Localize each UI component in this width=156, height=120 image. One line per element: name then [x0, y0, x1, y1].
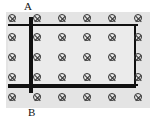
field-into-page-icon — [58, 53, 66, 61]
field-into-page-icon — [134, 93, 142, 101]
field-into-page-icon — [8, 53, 16, 61]
field-into-page-icon — [8, 73, 16, 81]
field-into-page-icon — [58, 73, 66, 81]
field-into-page-icon — [83, 73, 91, 81]
field-into-page-icon — [108, 73, 116, 81]
label-a: A — [24, 1, 32, 12]
field-into-page-icon — [33, 14, 41, 22]
field-into-page-icon — [8, 33, 16, 41]
field-into-page-icon — [134, 73, 142, 81]
bottom-rail — [8, 84, 138, 86]
field-into-page-icon — [134, 53, 142, 61]
field-into-page-icon — [58, 14, 66, 22]
field-into-page-icon — [134, 14, 142, 22]
field-into-page-icon — [58, 93, 66, 101]
field-into-page-icon — [83, 14, 91, 22]
field-into-page-icon — [33, 93, 41, 101]
field-into-page-icon — [33, 73, 41, 81]
field-into-page-icon — [83, 33, 91, 41]
field-into-page-icon — [134, 33, 142, 41]
field-into-page-icon — [33, 53, 41, 61]
field-into-page-icon — [108, 14, 116, 22]
label-b: B — [28, 107, 35, 118]
field-into-page-icon — [8, 14, 16, 22]
field-into-page-icon — [58, 33, 66, 41]
field-into-page-icon — [108, 53, 116, 61]
top-rail — [8, 24, 138, 26]
field-into-page-icon — [33, 33, 41, 41]
field-into-page-icon — [83, 93, 91, 101]
field-into-page-icon — [8, 93, 16, 101]
conducting-frame — [8, 24, 136, 88]
field-into-page-icon — [83, 53, 91, 61]
field-into-page-icon — [108, 33, 116, 41]
field-into-page-icon — [108, 93, 116, 101]
